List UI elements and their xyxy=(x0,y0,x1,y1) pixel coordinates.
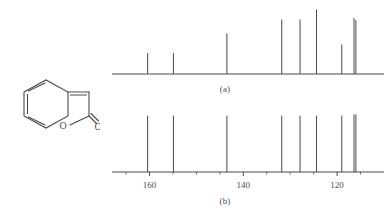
panel-label-a: (a) xyxy=(205,84,245,94)
coumarin-svg: O O xyxy=(8,76,100,142)
axis-tick-label: 160 xyxy=(143,180,157,190)
spectrum-a-svg xyxy=(112,2,384,78)
spectrum-b xyxy=(112,110,384,182)
panel-label-b: (b) xyxy=(205,196,245,206)
axis-tick-label: 140 xyxy=(237,180,251,190)
spectrum-b-svg xyxy=(112,110,384,182)
atom-label-carbonyl-oxygen: O xyxy=(94,121,100,132)
nmr-figure: O O (a) 160140120 (b) xyxy=(0,0,387,218)
molecule-structure-coumarin: O O xyxy=(8,76,100,142)
axis-tick-label: 120 xyxy=(330,180,344,190)
spectrum-a xyxy=(112,2,384,78)
atom-label-ring-oxygen: O xyxy=(59,120,66,131)
axis-tick-labels: 160140120 xyxy=(112,180,384,194)
